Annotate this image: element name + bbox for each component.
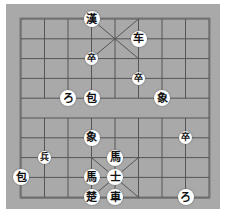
piece-red-horse[interactable]: 馬 xyxy=(84,169,100,185)
piece-black-soldier[interactable]: 卒 xyxy=(85,52,98,65)
xiangqi-board[interactable]: 漢车卒卒ろ包象象卒兵馬包馬士楚車ろ xyxy=(6,4,220,209)
piece-black-chariot[interactable]: 车 xyxy=(131,31,147,47)
piece-red-soldier[interactable]: 兵 xyxy=(38,151,51,164)
piece-black-cannon[interactable]: 包 xyxy=(84,90,100,106)
piece-red-elephant[interactable]: 象 xyxy=(84,130,100,146)
piece-red-horse[interactable]: ろ xyxy=(178,189,194,205)
piece-red-general[interactable]: 楚 xyxy=(84,189,100,205)
piece-black-general[interactable]: 漢 xyxy=(84,11,100,27)
piece-red-horse[interactable]: 馬 xyxy=(107,150,123,166)
piece-black-soldier[interactable]: 卒 xyxy=(132,72,145,85)
